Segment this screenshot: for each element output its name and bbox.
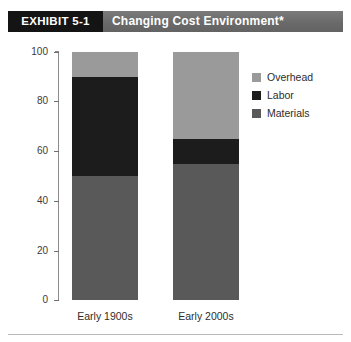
exhibit-figure: EXHIBIT 5-1 Changing Cost Environment* 1… — [0, 0, 351, 342]
y-tick-mark-0 — [54, 300, 59, 301]
legend: Overhead Labor Materials — [252, 69, 313, 123]
exhibit-title: Changing Cost Environment* — [112, 11, 284, 32]
bar-segment-overhead — [72, 52, 138, 77]
x-axis-label-early-2000s: Early 2000s — [151, 310, 261, 322]
exhibit-number-label: EXHIBIT 5-1 — [8, 11, 103, 32]
x-axis-label-early-1900s: Early 1900s — [50, 310, 160, 322]
y-tick-label-20: 20 — [14, 246, 48, 256]
footer-divider — [8, 334, 343, 335]
bar-segment-labor — [173, 139, 239, 164]
bar-segment-overhead — [173, 52, 239, 139]
legend-item-labor: Labor — [252, 87, 313, 103]
legend-swatch-labor — [252, 91, 261, 100]
plot-area — [58, 52, 248, 300]
y-tick-label-100: 100 — [14, 47, 48, 57]
legend-swatch-overhead — [252, 73, 261, 82]
legend-item-overhead: Overhead — [252, 69, 313, 85]
legend-label-materials: Materials — [267, 108, 310, 119]
legend-label-overhead: Overhead — [267, 72, 313, 83]
legend-item-materials: Materials — [252, 105, 313, 121]
legend-label-labor: Labor — [267, 90, 294, 101]
y-tick-label-0: 0 — [14, 295, 48, 305]
y-tick-label-40: 40 — [14, 196, 48, 206]
bar-segment-materials — [72, 176, 138, 300]
legend-swatch-materials — [252, 109, 261, 118]
bar-early-1900s — [72, 52, 138, 300]
y-tick-label-80: 80 — [14, 96, 48, 106]
bar-early-2000s — [173, 52, 239, 300]
bar-segment-materials — [173, 164, 239, 300]
y-tick-label-60: 60 — [14, 146, 48, 156]
bar-segment-labor — [72, 77, 138, 176]
